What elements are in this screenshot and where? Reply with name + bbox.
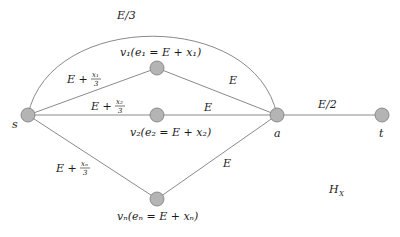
node-vn (150, 192, 164, 206)
edge-label-s-v2: E + (90, 100, 112, 113)
node-v2 (150, 108, 164, 122)
node-label-a: a (274, 127, 281, 140)
edge-v1-a (157, 68, 277, 115)
node-a (270, 108, 284, 122)
node-label-vn: vₙ(eₙ = E + xₙ) (117, 210, 198, 223)
node-label-s: s (12, 118, 18, 131)
edge-label-a-t: E/2 (317, 98, 337, 111)
edge-label-s-v1-num: x₁ (92, 71, 99, 79)
graph-label-sub: X (338, 190, 345, 198)
node-t (375, 108, 389, 122)
graph-label: H (328, 183, 339, 196)
edge-label-s-vn: E + (55, 162, 77, 175)
edge-label-v2-a: E (203, 101, 212, 114)
edge-label-s-vn-num: xₙ (81, 160, 88, 168)
node-label-v2: v₂(e₂ = E + x₂) (130, 126, 211, 139)
graph-diagram: s v₁(e₁ = E + x₁) v₂(e₂ = E + x₂) vₙ(eₙ … (0, 0, 400, 237)
node-v1 (150, 61, 164, 75)
edge-label-s-v2-num: x₂ (116, 98, 123, 106)
edge-label-s-v1-den: 3 (94, 80, 99, 88)
node-s (21, 108, 35, 122)
edge-label-s-a: E/3 (116, 9, 136, 22)
edge-label-s-vn-den: 3 (83, 169, 88, 177)
node-label-t: t (379, 127, 384, 140)
edge-label-s-v2-den: 3 (118, 107, 123, 115)
edge-label-vn-a: E (222, 157, 231, 170)
node-label-v1: v₁(e₁ = E + x₁) (120, 46, 201, 59)
edge-label-v1-a: E (228, 74, 237, 87)
edge-label-s-v1: E + (66, 73, 88, 86)
